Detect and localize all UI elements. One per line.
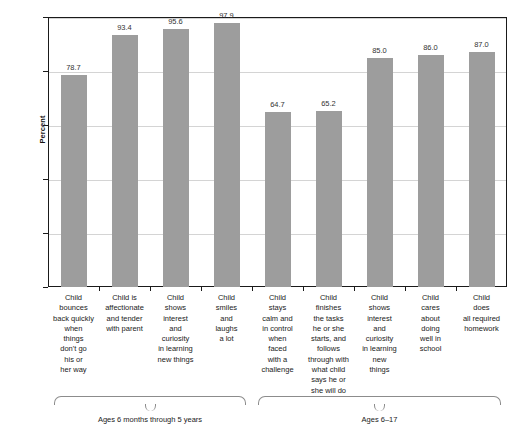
category-label-line: things xyxy=(369,365,389,374)
category-label-line: and xyxy=(169,324,182,333)
category-label-line: well in xyxy=(420,334,441,343)
category-label-line: about xyxy=(421,314,440,323)
category-label-line: with parent xyxy=(106,324,143,333)
category-label-line: Child xyxy=(269,293,286,302)
bar-slot: 95.6 xyxy=(150,17,201,287)
y-tick-mark xyxy=(43,287,48,288)
category-label-line: in learning xyxy=(158,344,193,353)
bar[interactable] xyxy=(367,58,393,288)
category-label-line: Child xyxy=(473,293,490,302)
category-label: Childshowsinterestandcuriosityin learnin… xyxy=(150,293,201,365)
group-label: Ages 6 months through 5 years xyxy=(30,415,270,424)
bar[interactable] xyxy=(418,55,444,287)
category-label-line: does xyxy=(473,303,489,312)
x-tick-mark xyxy=(354,287,355,291)
category-label-line: starts, and xyxy=(311,334,346,343)
category-label-line: finishes xyxy=(316,303,341,312)
category-label-line: what child xyxy=(312,365,345,374)
category-label-line: and xyxy=(373,324,386,333)
category-label-line: Child xyxy=(422,293,439,302)
category-label-line: his or xyxy=(64,355,82,364)
category-label-line: he or she xyxy=(313,324,344,333)
bar-slot: 85.0 xyxy=(354,17,405,287)
category-labels: Childbouncesback quicklywhenthingsdon't … xyxy=(48,293,507,393)
category-label-line: cares xyxy=(421,303,439,312)
category-label-line: smiles xyxy=(216,303,237,312)
category-label-line: interest xyxy=(163,314,188,323)
category-label-line: stays xyxy=(269,303,287,312)
category-label-line: doing xyxy=(421,324,439,333)
category-label-line: in learning xyxy=(362,344,397,353)
category-label-line: through with xyxy=(308,355,349,364)
x-tick-mark xyxy=(405,287,406,291)
x-tick-mark xyxy=(456,287,457,291)
bar[interactable] xyxy=(316,111,342,287)
bar-value-label: 87.0 xyxy=(474,40,489,49)
bar-value-label: 93.4 xyxy=(117,23,132,32)
category-label: Childstayscalm andin controlwhenfacedwit… xyxy=(252,293,303,375)
category-label-line: interest xyxy=(367,314,392,323)
bar-value-label: 65.2 xyxy=(321,99,336,108)
group-label: Ages 6–17 xyxy=(260,415,500,424)
group-brace-notch xyxy=(145,404,156,411)
category-label-line: back quickly xyxy=(53,314,94,323)
bar[interactable] xyxy=(61,75,87,287)
bar[interactable] xyxy=(469,52,495,287)
category-label-line: faced xyxy=(268,344,286,353)
category-label-line: and tender xyxy=(107,314,143,323)
category-label-line: her way xyxy=(60,365,86,374)
x-tick-mark xyxy=(99,287,100,291)
bar-value-label: 86.0 xyxy=(423,43,438,52)
category-label-line: curiosity xyxy=(162,334,190,343)
category-label-line: a lot xyxy=(219,334,233,343)
category-label-line: challenge xyxy=(261,365,293,374)
bar-slot: 97.9 xyxy=(201,17,252,287)
category-label: Childshowsinterestandcuriosityin learnin… xyxy=(354,293,405,375)
category-label-line: school xyxy=(420,344,442,353)
category-label: Childcaresaboutdoingwell inschool xyxy=(405,293,456,355)
bar-slot: 78.7 xyxy=(48,17,99,287)
category-label: Childdoesall requiredhomework xyxy=(456,293,507,334)
category-label-line: bounces xyxy=(59,303,87,312)
category-label-line: all required xyxy=(463,314,500,323)
bar-slot: 65.2 xyxy=(303,17,354,287)
category-label: Child isaffectionateand tenderwith paren… xyxy=(99,293,150,334)
bar-value-label: 95.6 xyxy=(168,17,183,26)
category-label-line: affectionate xyxy=(105,303,144,312)
bars-layer: 78.793.495.697.964.765.285.086.087.0 xyxy=(48,17,507,287)
category-label-line: things xyxy=(63,334,83,343)
bar[interactable] xyxy=(112,35,138,287)
category-label-line: Child is xyxy=(112,293,137,302)
bar-slot: 93.4 xyxy=(99,17,150,287)
category-label-line: shows xyxy=(165,303,186,312)
bar-value-label: 64.7 xyxy=(270,100,285,109)
bar[interactable] xyxy=(265,112,291,287)
category-label-line: new xyxy=(373,355,387,364)
category-label-line: the tasks xyxy=(313,314,343,323)
category-label-line: she will do xyxy=(311,386,346,395)
category-label-line: in control xyxy=(262,324,292,333)
category-label-line: Child xyxy=(320,293,337,302)
bar-slot: 87.0 xyxy=(456,17,507,287)
category-label-line: follows xyxy=(317,344,340,353)
x-tick-mark xyxy=(252,287,253,291)
x-tick-mark xyxy=(201,287,202,291)
category-label-line: and xyxy=(220,314,233,323)
category-label-line: when xyxy=(269,334,287,343)
category-label-line: Child xyxy=(371,293,388,302)
category-label-line: calm and xyxy=(262,314,292,323)
y-axis-title: Percent xyxy=(38,90,47,170)
category-label: Childsmilesandlaughsa lot xyxy=(201,293,252,344)
category-label-line: shows xyxy=(369,303,390,312)
category-label-line: homework xyxy=(464,324,499,333)
x-tick-mark xyxy=(303,287,304,291)
x-tick-mark xyxy=(150,287,151,291)
bar[interactable] xyxy=(163,29,189,287)
category-label-line: laughs xyxy=(215,324,237,333)
bar[interactable] xyxy=(214,23,240,287)
group-brace-notch xyxy=(374,404,385,411)
category-label-line: Child xyxy=(218,293,235,302)
category-label-line: Child xyxy=(167,293,184,302)
category-label-line: says he or xyxy=(311,375,346,384)
bar-value-label: 97.9 xyxy=(219,11,234,20)
